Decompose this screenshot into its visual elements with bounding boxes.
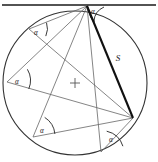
figure-canvas: α α α α α S <box>0 0 158 162</box>
geometry-figure: α α α α α S <box>0 0 158 162</box>
ray-right-to-upper-left <box>29 29 133 118</box>
arc-alpha-apex <box>94 7 104 22</box>
arc-alpha-lower-left <box>45 117 55 133</box>
label-alpha-upper-left: α <box>34 29 38 37</box>
arc-alpha-upper-left <box>46 23 48 36</box>
label-alpha-bottom: α <box>109 136 113 144</box>
angle-arcs <box>27 7 123 146</box>
ray-apex-to-upper-left <box>29 6 87 29</box>
label-alpha-left: α <box>15 78 19 86</box>
arc-alpha-left <box>27 69 30 89</box>
chord-s <box>87 6 133 118</box>
center-marker-icon <box>70 78 80 88</box>
label-chord-s: S <box>116 53 121 63</box>
ray-apex-to-bottom <box>87 6 101 152</box>
ray-right-to-left <box>7 82 133 118</box>
label-alpha-lower-left: α <box>40 127 44 135</box>
label-alpha-apex: α <box>91 8 95 16</box>
